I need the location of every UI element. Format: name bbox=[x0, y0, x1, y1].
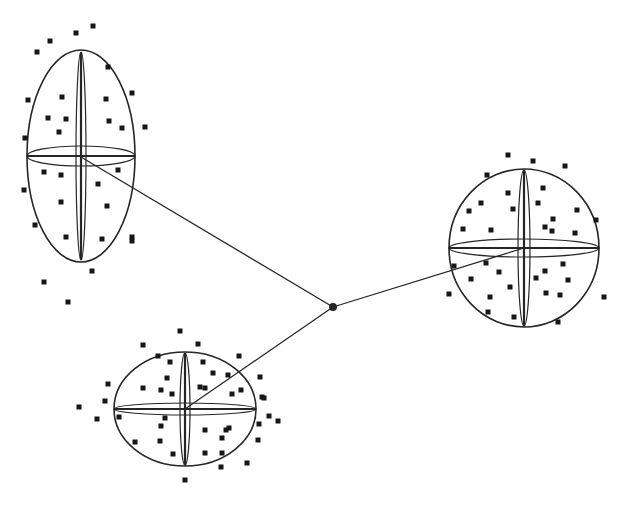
data-point bbox=[165, 376, 170, 381]
data-point bbox=[22, 188, 27, 193]
data-point bbox=[227, 426, 232, 431]
data-point bbox=[170, 392, 175, 397]
data-point bbox=[91, 24, 96, 29]
data-point bbox=[258, 375, 263, 380]
data-point bbox=[178, 329, 183, 334]
data-point bbox=[106, 382, 111, 387]
data-point bbox=[575, 208, 580, 213]
data-point bbox=[556, 320, 561, 325]
data-point bbox=[506, 153, 511, 158]
data-point bbox=[35, 50, 40, 55]
data-point bbox=[171, 452, 176, 457]
data-point bbox=[163, 416, 168, 421]
data-point bbox=[489, 228, 494, 233]
data-point bbox=[566, 278, 571, 283]
data-point bbox=[267, 414, 272, 419]
data-point bbox=[158, 439, 163, 444]
data-point bbox=[159, 388, 164, 393]
data-point bbox=[60, 95, 65, 100]
cluster-figure bbox=[0, 0, 629, 508]
data-point bbox=[23, 136, 28, 141]
data-point bbox=[26, 98, 31, 103]
data-point bbox=[103, 399, 108, 404]
data-point bbox=[257, 422, 262, 427]
data-point bbox=[561, 262, 566, 267]
data-point bbox=[479, 201, 484, 206]
data-point bbox=[74, 31, 79, 36]
data-point bbox=[106, 65, 111, 70]
data-point bbox=[447, 292, 452, 297]
data-point bbox=[506, 191, 511, 196]
data-point bbox=[96, 182, 101, 187]
data-point bbox=[594, 218, 599, 223]
data-point bbox=[42, 280, 47, 285]
data-point bbox=[558, 293, 563, 298]
data-point bbox=[469, 277, 474, 282]
connector-line bbox=[185, 307, 333, 409]
data-point bbox=[497, 270, 502, 275]
data-point bbox=[48, 39, 53, 44]
data-point bbox=[461, 227, 466, 232]
data-point bbox=[57, 130, 62, 135]
data-point bbox=[536, 201, 541, 206]
data-point bbox=[46, 116, 51, 121]
data-point bbox=[486, 310, 491, 315]
data-point bbox=[141, 343, 146, 348]
data-point bbox=[168, 360, 173, 365]
data-point bbox=[467, 209, 472, 214]
data-point bbox=[107, 119, 112, 124]
data-point bbox=[237, 354, 242, 359]
data-point bbox=[452, 264, 457, 269]
data-point bbox=[203, 386, 208, 391]
data-point bbox=[550, 229, 555, 234]
data-point bbox=[120, 126, 125, 131]
data-point bbox=[117, 415, 122, 420]
data-point bbox=[133, 440, 138, 445]
data-point bbox=[104, 97, 109, 102]
data-point bbox=[256, 438, 261, 443]
data-point bbox=[544, 291, 549, 296]
data-point bbox=[262, 396, 267, 401]
data-point bbox=[105, 204, 110, 209]
hub-point bbox=[329, 303, 337, 311]
data-point bbox=[563, 164, 568, 169]
data-point bbox=[143, 125, 148, 130]
data-point bbox=[183, 478, 188, 483]
data-point bbox=[130, 91, 135, 96]
data-point bbox=[602, 295, 607, 300]
data-point bbox=[543, 225, 548, 230]
data-point bbox=[33, 223, 38, 228]
data-point bbox=[573, 231, 578, 236]
data-point bbox=[196, 342, 201, 347]
data-point bbox=[59, 173, 64, 178]
data-point bbox=[95, 417, 100, 422]
data-point bbox=[245, 461, 250, 466]
data-point bbox=[64, 235, 69, 240]
data-point bbox=[484, 261, 489, 266]
data-point bbox=[512, 315, 517, 320]
data-point bbox=[100, 237, 105, 242]
data-point bbox=[220, 436, 225, 441]
data-point bbox=[543, 269, 548, 274]
data-point bbox=[220, 451, 225, 456]
data-point bbox=[219, 465, 224, 470]
data-point bbox=[239, 388, 244, 393]
data-point bbox=[485, 173, 490, 178]
data-point bbox=[534, 276, 539, 281]
data-point bbox=[203, 428, 208, 433]
data-point bbox=[198, 385, 203, 390]
data-point bbox=[59, 200, 64, 205]
data-point bbox=[211, 371, 216, 376]
data-point bbox=[551, 217, 556, 222]
data-point bbox=[511, 207, 516, 212]
data-point bbox=[116, 168, 121, 173]
data-point bbox=[488, 295, 493, 300]
data-point bbox=[508, 285, 513, 290]
data-point bbox=[66, 300, 71, 305]
data-point bbox=[203, 451, 208, 456]
data-point bbox=[77, 405, 82, 410]
data-point bbox=[141, 386, 146, 391]
data-point bbox=[201, 360, 206, 365]
data-point bbox=[159, 424, 164, 429]
data-point bbox=[64, 117, 69, 122]
